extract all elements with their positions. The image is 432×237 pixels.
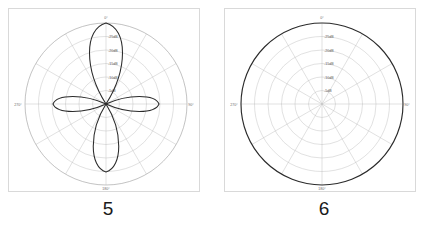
angle-label-270: 270° bbox=[230, 103, 238, 107]
radial-tick-label: -20dB bbox=[108, 49, 118, 53]
polar-chart-5: -5dB -10dB -15dB -20dB -25dB 0° 90° 180°… bbox=[9, 9, 199, 191]
radial-tick-label: -15dB bbox=[108, 62, 118, 66]
plot-frame-6: -5dB -10dB -15dB -20dB -25dB 0° 90° 180°… bbox=[224, 8, 416, 192]
polar-spokes-6 bbox=[241, 23, 403, 185]
angle-tick-labels-6: 0° 90° 180° 270° bbox=[230, 16, 410, 191]
radial-tick-label: -15dB bbox=[324, 62, 334, 66]
figure-sheet: -5dB -10dB -15dB -20dB -25dB 0° 90° 180°… bbox=[0, 0, 432, 237]
angle-label-0: 0° bbox=[320, 16, 324, 20]
angle-label-180: 180° bbox=[102, 187, 110, 191]
figure-caption-5: 5 bbox=[0, 198, 216, 220]
radial-tick-label: -25dB bbox=[108, 35, 118, 39]
angle-label-90: 90° bbox=[188, 103, 194, 107]
polar-chart-6: -5dB -10dB -15dB -20dB -25dB 0° 90° 180°… bbox=[225, 9, 415, 191]
angle-label-270: 270° bbox=[14, 103, 22, 107]
figure-caption-6: 6 bbox=[216, 198, 432, 220]
angle-label-90: 90° bbox=[404, 103, 410, 107]
radial-tick-label: -10dB bbox=[324, 76, 334, 80]
radial-tick-label: -5dB bbox=[324, 89, 332, 93]
radial-tick-labels-6: -5dB -10dB -15dB -20dB -25dB bbox=[324, 35, 334, 93]
plot-frame-5: -5dB -10dB -15dB -20dB -25dB 0° 90° 180°… bbox=[8, 8, 200, 192]
angle-label-180: 180° bbox=[318, 187, 326, 191]
radial-tick-label: -25dB bbox=[324, 35, 334, 39]
radial-tick-label: -10dB bbox=[108, 76, 118, 80]
radial-tick-label: -20dB bbox=[324, 49, 334, 53]
angle-label-0: 0° bbox=[104, 16, 108, 20]
